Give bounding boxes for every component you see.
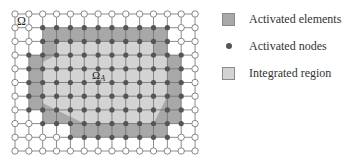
- activated-node-icon: [151, 121, 156, 126]
- inactive-node-icon: [26, 25, 32, 31]
- inactive-node-icon: [136, 148, 142, 154]
- activated-node-icon: [82, 39, 87, 44]
- legend-label: Integrated region: [249, 66, 331, 81]
- activated-node-icon: [109, 80, 114, 85]
- activated-node-icon: [123, 53, 128, 58]
- activated-node-icon: [165, 121, 170, 126]
- activated-node-icon: [165, 94, 170, 99]
- integrated-region-swatch-icon: [222, 67, 235, 80]
- activated-node-icon: [137, 107, 142, 112]
- inactive-node-icon: [81, 148, 87, 154]
- inactive-node-icon: [12, 52, 18, 58]
- activated-node-icon: [54, 80, 59, 85]
- inactive-node-icon: [192, 52, 198, 58]
- activated-node-icon: [137, 39, 142, 44]
- activated-node-icon: [68, 25, 73, 30]
- legend-label: Activated elements: [249, 12, 341, 27]
- activated-node-icon: [82, 121, 87, 126]
- activated-node-icon: [40, 39, 45, 44]
- activated-node-icon: [165, 66, 170, 71]
- activated-node-icon: [54, 25, 59, 30]
- inactive-node-icon: [26, 134, 32, 140]
- activated-node-icon: [123, 121, 128, 126]
- activated-node-icon: [151, 135, 156, 140]
- activated-node-icon: [54, 107, 59, 112]
- activated-node-icon: [151, 66, 156, 71]
- activated-node-icon: [68, 135, 73, 140]
- finite-element-grid-diagram: Ω ΩA: [0, 0, 215, 164]
- inactive-node-icon: [192, 107, 198, 113]
- inactive-node-icon: [67, 11, 73, 17]
- activated-node-icon: [82, 107, 87, 112]
- activated-node-icon: [151, 94, 156, 99]
- inactive-node-icon: [192, 93, 198, 99]
- activated-node-icon: [40, 53, 45, 58]
- activated-node-icon: [109, 94, 114, 99]
- activated-node-icon: [82, 66, 87, 71]
- activated-node-icon: [96, 94, 101, 99]
- inactive-node-icon: [178, 25, 184, 31]
- inactive-node-icon: [164, 11, 170, 17]
- activated-node-icon: [68, 39, 73, 44]
- activated-node-icon: [165, 39, 170, 44]
- inactive-node-icon: [178, 38, 184, 44]
- activated-node-icon: [123, 135, 128, 140]
- activated-node-icon: [96, 39, 101, 44]
- legend-item-integrated-region: Integrated region: [222, 65, 331, 81]
- activated-node-icon: [82, 53, 87, 58]
- activated-node-icon: [109, 135, 114, 140]
- inactive-node-icon: [109, 148, 115, 154]
- activated-node-icon: [165, 53, 170, 58]
- legend-label: Activated nodes: [249, 39, 327, 54]
- inactive-node-icon: [150, 148, 156, 154]
- inactive-node-icon: [40, 134, 46, 140]
- inactive-node-icon: [12, 107, 18, 113]
- inactive-node-icon: [109, 11, 115, 17]
- activated-node-icon: [179, 53, 184, 58]
- activated-node-icon: [109, 25, 114, 30]
- inactive-node-icon: [26, 38, 32, 44]
- activated-node-icon: [151, 107, 156, 112]
- activated-node-icon: [40, 80, 45, 85]
- subdomain-label-subscript: A: [99, 74, 105, 83]
- inactive-node-icon: [26, 120, 32, 126]
- activated-node-icon: [68, 94, 73, 99]
- activated-node-icon: [26, 66, 31, 71]
- activated-node-icon: [137, 80, 142, 85]
- activated-node-icon: [82, 25, 87, 30]
- activated-node-icon: [109, 53, 114, 58]
- inactive-node-icon: [136, 11, 142, 17]
- inactive-node-icon: [12, 93, 18, 99]
- inactive-node-icon: [192, 79, 198, 85]
- activated-node-icon: [82, 135, 87, 140]
- activated-node-icon: [165, 135, 170, 140]
- inactive-node-icon: [123, 11, 129, 17]
- activated-node-icon: [40, 107, 45, 112]
- legend-item-activated-nodes: Activated nodes: [222, 38, 327, 54]
- activated-node-icon: [137, 135, 142, 140]
- subdomain-label-base: Ω: [92, 69, 100, 81]
- activated-node-icon: [179, 66, 184, 71]
- activated-node-icon: [96, 53, 101, 58]
- activated-node-icon: [123, 107, 128, 112]
- inactive-node-icon: [192, 66, 198, 72]
- legend-item-activated-elements: Activated elements: [222, 11, 341, 27]
- activated-node-icon: [54, 94, 59, 99]
- activated-node-dot-icon: [222, 40, 235, 53]
- activated-node-icon: [68, 121, 73, 126]
- activated-node-icon: [123, 39, 128, 44]
- activated-node-icon: [123, 25, 128, 30]
- activated-node-icon: [165, 80, 170, 85]
- activated-elements-swatch-icon: [222, 13, 235, 26]
- inactive-node-icon: [12, 66, 18, 72]
- inactive-node-icon: [67, 148, 73, 154]
- inactive-node-icon: [12, 148, 18, 154]
- activated-node-icon: [137, 66, 142, 71]
- activated-node-icon: [96, 135, 101, 140]
- activated-node-icon: [123, 80, 128, 85]
- activated-node-icon: [40, 25, 45, 30]
- activated-node-icon: [82, 80, 87, 85]
- inactive-node-icon: [192, 11, 198, 17]
- activated-node-icon: [165, 25, 170, 30]
- inactive-node-icon: [164, 148, 170, 154]
